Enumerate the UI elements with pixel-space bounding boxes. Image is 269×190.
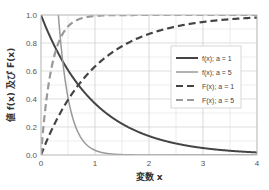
y-axis-ticks: 0.00.20.40.60.81.0 — [26, 11, 38, 160]
legend-label: F(x); a = 1 — [202, 83, 234, 91]
y-tick-label: 0.0 — [26, 151, 38, 160]
legend-label: f(x); a = 5 — [202, 69, 232, 77]
x-axis-ticks: 01234 — [39, 159, 260, 168]
legend: f(x); a = 1f(x); a = 5F(x); a = 1F(x); a… — [171, 46, 241, 108]
x-tick-label: 2 — [147, 159, 152, 168]
y-tick-label: 0.8 — [26, 39, 38, 48]
legend-label: f(x); a = 1 — [202, 55, 232, 63]
y-tick-label: 0.4 — [26, 95, 38, 104]
x-tick-label: 1 — [93, 159, 98, 168]
y-tick-label: 0.2 — [26, 123, 38, 132]
y-tick-label: 1.0 — [26, 11, 38, 20]
x-tick-label: 0 — [39, 159, 44, 168]
legend-label: F(x); a = 5 — [202, 97, 234, 105]
y-tick-label: 0.6 — [26, 67, 38, 76]
x-tick-label: 4 — [255, 159, 260, 168]
y-axis-label: 値 f(x) 及び F(x) — [5, 48, 16, 124]
chart: 0.00.20.40.60.81.0 01234 変数 x 値 f(x) 及び … — [0, 0, 269, 190]
x-axis-label: 変数 x — [136, 171, 163, 182]
x-tick-label: 3 — [201, 159, 206, 168]
